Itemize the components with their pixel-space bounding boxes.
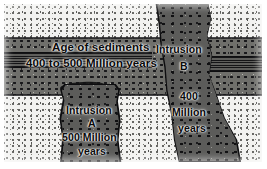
intrusion-a-letter: A <box>88 117 96 129</box>
cross-section-plate: Age of sediments 400 to 500 Million year… <box>4 4 262 162</box>
country-rock-upper <box>4 4 262 38</box>
intrusion-b-label: Intrusion <box>156 43 202 55</box>
geologic-cross-section-figure: Age of sediments 400 to 500 Million year… <box>0 0 267 169</box>
intrusion-b-age-line1: 400 <box>180 90 198 102</box>
intrusion-a-age-line2: years <box>78 145 106 157</box>
intrusion-b-letter: B <box>180 60 188 72</box>
intrusion-a-label: Intrusion <box>66 104 112 116</box>
intrusion-b-age-line2: Million <box>172 106 206 118</box>
intrusion-a-age-line1: 500 Million <box>62 131 117 143</box>
intrusion-b-age-line3: years <box>178 122 206 134</box>
sediment-age-title: Age of sediments <box>52 41 149 53</box>
upper-contact-line <box>4 37 262 39</box>
lower-contact-line <box>4 94 262 96</box>
sediment-age-value: 400 to 500 Million years <box>26 57 157 69</box>
